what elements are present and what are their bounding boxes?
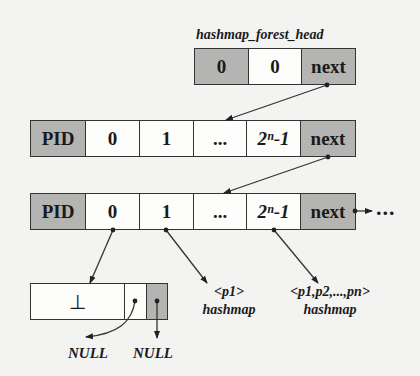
- pointer-arrows: [0, 0, 420, 376]
